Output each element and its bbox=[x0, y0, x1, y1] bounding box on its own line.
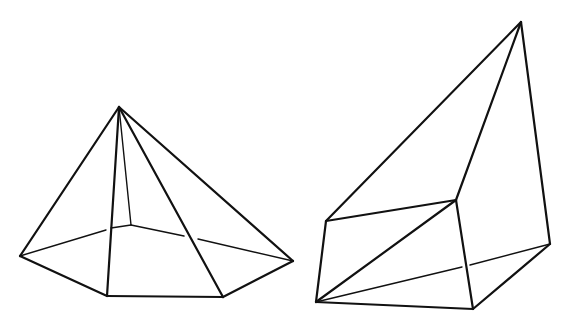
visible-edge bbox=[119, 107, 223, 297]
pentagonal-pyramid bbox=[20, 107, 293, 297]
visible-edge bbox=[20, 256, 107, 296]
hidden-edge bbox=[111, 225, 131, 228]
visible-edge bbox=[521, 22, 550, 244]
visible-edge bbox=[20, 107, 119, 256]
visible-edge bbox=[316, 200, 456, 302]
hidden-edge bbox=[131, 225, 184, 236]
visible-edge bbox=[326, 200, 456, 221]
visible-edge bbox=[316, 221, 326, 302]
hidden-edge bbox=[198, 239, 293, 261]
visible-edge bbox=[107, 296, 223, 297]
visible-edge bbox=[107, 107, 119, 296]
visible-edge bbox=[456, 200, 473, 309]
hidden-edge bbox=[20, 230, 106, 256]
geometry-diagram bbox=[0, 0, 568, 334]
visible-edge bbox=[223, 261, 293, 297]
visible-edge bbox=[316, 302, 473, 309]
hidden-edge bbox=[316, 267, 462, 302]
visible-edge bbox=[456, 22, 521, 200]
visible-edge bbox=[326, 22, 521, 221]
visible-edge bbox=[119, 107, 293, 261]
wedge-solid bbox=[316, 22, 550, 309]
